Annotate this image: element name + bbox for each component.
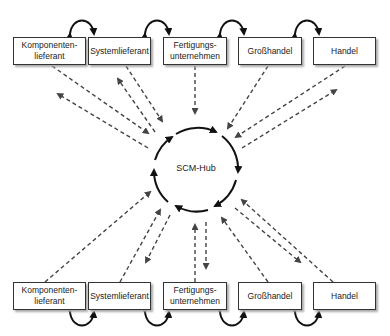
bottom-dashed-arrows <box>45 192 333 282</box>
bottom-box-handel: Handel <box>313 282 376 310</box>
top-box-systemlieferant: Systemlieferant <box>88 37 151 65</box>
bottom-box-fertigungsunternehmen: Fertigungs- unternehmen <box>163 282 227 310</box>
bottom-box-systemlieferant: Systemlieferant <box>88 282 151 310</box>
bottom-box-grosshandel: Großhandel <box>238 282 302 310</box>
hub-label: SCM-Hub <box>166 163 226 173</box>
top-box-komponentenlieferant: Komponenten- lieferant <box>13 37 86 65</box>
top-box-grosshandel: Großhandel <box>238 37 302 65</box>
top-box-handel: Handel <box>313 37 376 65</box>
top-loop-arrows <box>70 21 319 35</box>
top-box-fertigungsunternehmen: Fertigungs- unternehmen <box>163 37 227 65</box>
bottom-box-komponentenlieferant: Komponenten- lieferant <box>13 282 86 310</box>
top-dashed-arrows <box>52 66 345 148</box>
bottom-loop-arrows <box>70 312 319 326</box>
